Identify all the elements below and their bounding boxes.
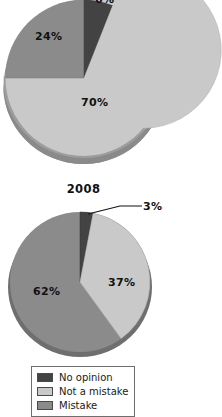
bottom-label-mistake: 62% <box>33 285 60 298</box>
bottom-label-not-a-mistake: 37% <box>108 276 135 289</box>
legend-label-mistake: Mistake <box>59 400 97 411</box>
legend-swatch-mistake <box>37 401 53 410</box>
legend-label-no-opinion: No opinion <box>59 372 113 383</box>
year-caption-2008: 2008 <box>0 182 167 196</box>
bottom-label-no-opinion: 3% <box>143 200 162 213</box>
legend-item-not-a-mistake: Not a mistake <box>37 385 129 398</box>
legend-label-not-a-mistake: Not a mistake <box>59 386 128 397</box>
top-label-not-a-mistake: 70% <box>81 96 108 109</box>
bottom-pie-svg: 3% 37% 62% <box>0 200 167 360</box>
top-pie-svg: 6% 24% 70% <box>0 0 167 164</box>
bottom-callout-leader-line <box>88 206 142 214</box>
legend-item-no-opinion: No opinion <box>37 371 129 384</box>
legend-swatch-not-a-mistake <box>37 387 53 396</box>
top-pie-chart: 6% 24% 70% <box>0 0 167 164</box>
legend-swatch-no-opinion <box>37 373 53 382</box>
legend-item-mistake: Mistake <box>37 399 129 412</box>
bottom-pie-chart: 3% 37% 62% <box>0 200 167 360</box>
top-label-mistake: 24% <box>35 30 62 43</box>
top-slice-group <box>6 0 162 156</box>
legend: No opinion Not a mistake Mistake <box>31 366 135 417</box>
top-label-no-opinion: 6% <box>95 0 114 6</box>
